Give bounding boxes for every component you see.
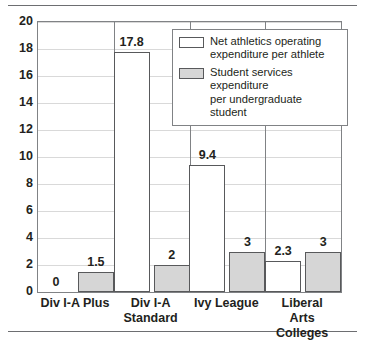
- bar-value-label: 3: [244, 236, 251, 249]
- y-axis-tick-label: 4: [3, 231, 33, 244]
- bar: [189, 165, 225, 292]
- bar-value-label: 2.3: [274, 245, 291, 258]
- bar: [305, 252, 341, 293]
- bar-value-label: 3: [320, 236, 327, 249]
- y-axis-tick-label: 0: [3, 285, 33, 298]
- y-axis-tick-label: 12: [3, 123, 33, 136]
- x-axis-category-label: Div I-A Plus: [40, 296, 109, 311]
- bar-value-label: 2: [168, 249, 175, 262]
- legend-item-label: Net athletics operating expenditure per …: [210, 35, 324, 62]
- bar: [229, 252, 265, 293]
- legend-item-label: Student services expenditure per undergr…: [210, 66, 341, 120]
- y-axis-tick-label: 20: [3, 15, 33, 28]
- chart-legend: Net athletics operating expenditure per …: [172, 29, 348, 126]
- legend-swatch-icon: [179, 37, 204, 48]
- bar-value-label: 17.8: [119, 36, 143, 49]
- y-axis-tick-label: 6: [3, 204, 33, 217]
- top-divider-rule: [8, 5, 357, 6]
- bar: [265, 261, 301, 292]
- y-axis: 02468101214161820: [0, 21, 33, 293]
- x-axis-category-label: Div I-A Standard: [124, 296, 178, 326]
- x-axis-category-label: Liberal Arts Colleges: [276, 296, 328, 340]
- y-axis-tick-label: 18: [3, 42, 33, 55]
- legend-swatch-icon: [179, 68, 204, 79]
- y-axis-tick-label: 8: [3, 177, 33, 190]
- y-axis-tick-label: 10: [3, 150, 33, 163]
- y-axis-tick-label: 2: [3, 258, 33, 271]
- y-axis-tick-label: 16: [3, 69, 33, 82]
- legend-item: Net athletics operating expenditure per …: [179, 35, 341, 62]
- bar-value-label: 1.5: [87, 256, 104, 269]
- y-axis-tick-label: 14: [3, 96, 33, 109]
- bar: [154, 265, 190, 292]
- bar: [114, 52, 150, 292]
- bar-value-label: 9.4: [199, 149, 216, 162]
- bar: [78, 272, 114, 292]
- x-axis-category-labels: Div I-A PlusDiv I-A StandardIvy LeagueLi…: [37, 296, 342, 336]
- x-axis-category-label: Ivy League: [194, 296, 259, 311]
- bar-value-label: 0: [52, 276, 59, 289]
- legend-item: Student services expenditure per undergr…: [179, 66, 341, 120]
